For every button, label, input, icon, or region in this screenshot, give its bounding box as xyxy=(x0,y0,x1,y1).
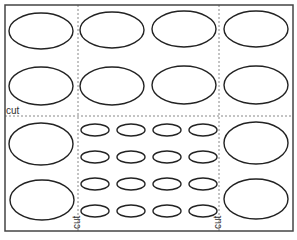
small-oval-shape xyxy=(117,124,145,136)
right-vertical-cut-label: cut xyxy=(213,216,223,229)
small-oval-shape xyxy=(117,178,145,190)
large-oval-shape xyxy=(224,11,288,47)
small-oval-shape xyxy=(153,151,181,163)
left-vertical-cut-label: cut xyxy=(72,216,82,229)
large-oval-shape xyxy=(224,66,288,104)
small-oval-shape xyxy=(153,124,181,136)
large-oval-shape xyxy=(9,123,73,165)
large-oval-shape xyxy=(80,12,144,48)
large-oval-shape xyxy=(9,67,73,105)
large-oval-shape xyxy=(152,11,216,47)
small-oval-shape xyxy=(81,205,109,217)
large-oval-shape xyxy=(9,13,73,49)
small-oval-shape xyxy=(81,178,109,190)
large-oval-shape xyxy=(80,67,144,105)
small-oval-shape xyxy=(81,124,109,136)
small-oval-shape xyxy=(81,151,109,163)
small-oval-shape xyxy=(189,151,217,163)
small-oval-shape xyxy=(117,205,145,217)
horizontal-cut-label: cut xyxy=(6,106,19,116)
small-oval-shape xyxy=(189,178,217,190)
small-oval-shape xyxy=(153,205,181,217)
cutout-sheet: cut cut cut xyxy=(0,0,297,240)
large-oval-shape xyxy=(10,180,74,220)
large-oval-shape xyxy=(152,66,216,104)
small-oval-shape xyxy=(117,151,145,163)
small-oval-shape xyxy=(153,178,181,190)
sheet-drawing xyxy=(0,0,297,240)
large-oval-shape xyxy=(224,179,288,219)
large-oval-shape xyxy=(224,122,288,164)
small-oval-shape xyxy=(189,124,217,136)
